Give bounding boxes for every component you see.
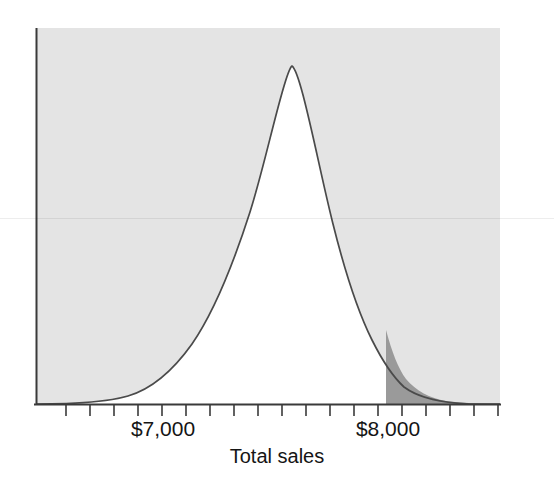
- x-tick-label-8000: $8,000: [338, 417, 438, 441]
- distribution-chart: $7,000 $8,000 Total sales: [0, 0, 554, 487]
- x-axis-title: Total sales: [177, 445, 377, 468]
- chart-svg: [0, 0, 554, 487]
- x-tick-label-7000: $7,000: [113, 417, 213, 441]
